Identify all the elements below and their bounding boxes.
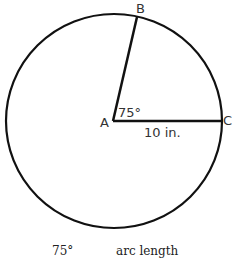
radius-label: 10 in.	[144, 126, 181, 139]
point-a-label: A	[100, 116, 109, 129]
formula-angle-numerator: 75°	[52, 245, 73, 257]
point-b-label: B	[136, 2, 145, 15]
point-c-label: C	[223, 114, 232, 127]
angle-label: 75°	[118, 106, 141, 119]
formula-arc-numerator: arc length	[116, 245, 178, 257]
